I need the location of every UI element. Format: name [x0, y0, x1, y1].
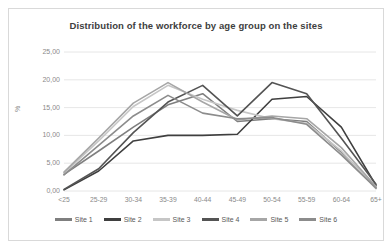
legend-item[interactable]: Site 2	[104, 216, 142, 223]
legend-label: Site 3	[173, 216, 191, 223]
x-axis-tick-label: 40-44	[186, 196, 220, 203]
legend-item[interactable]: Site 6	[299, 216, 337, 223]
legend-line-icon	[202, 218, 219, 220]
x-axis-tick-label: 65+	[359, 196, 392, 203]
legend-label: Site 6	[319, 216, 337, 223]
x-axis-tick-label: <25	[47, 196, 81, 203]
plot-area	[0, 0, 392, 249]
chart-screenshot: Distribution of the workforce by age gro…	[0, 0, 392, 249]
x-axis-tick-label: 55-59	[290, 196, 324, 203]
legend-line-icon	[299, 218, 316, 220]
legend-item[interactable]: Site 5	[250, 216, 288, 223]
x-axis-tick-label: 50-54	[255, 196, 289, 203]
legend-item[interactable]: Site 1	[55, 216, 93, 223]
legend-label: Site 5	[270, 216, 288, 223]
legend-label: Site 1	[75, 216, 93, 223]
chart-legend: Site 1Site 2Site 3Site 4Site 5Site 6	[9, 216, 383, 223]
x-axis-tick-label: 30-34	[116, 196, 150, 203]
legend-line-icon	[104, 218, 121, 220]
legend-line-icon	[250, 218, 267, 220]
series-lines	[64, 83, 376, 190]
legend-line-icon	[153, 218, 170, 220]
x-axis-tick-label: 35-39	[151, 196, 185, 203]
legend-line-icon	[55, 218, 72, 220]
legend-label: Site 4	[222, 216, 240, 223]
x-axis-tick-label: 45-49	[220, 196, 254, 203]
x-axis-tick-label: 60-64	[324, 196, 358, 203]
legend-item[interactable]: Site 4	[202, 216, 240, 223]
legend-label: Site 2	[124, 216, 142, 223]
legend-item[interactable]: Site 3	[153, 216, 191, 223]
x-axis-tick-label: 25-29	[82, 196, 116, 203]
